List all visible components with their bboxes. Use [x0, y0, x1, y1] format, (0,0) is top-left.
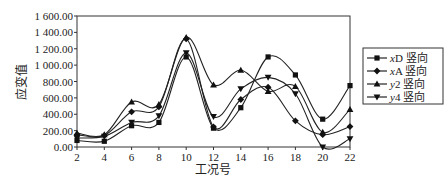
legend-label: y2 竖向: [389, 77, 425, 90]
series-y2: [74, 34, 354, 137]
line-chart: 0.00200.00400.00600.00800.001 000.001 20…: [0, 0, 445, 187]
x-tick-label: 8: [156, 151, 162, 163]
x-tick-label: 22: [345, 151, 356, 163]
y-tick-label: 0.00: [54, 141, 74, 153]
legend-label: y4 竖向: [389, 90, 425, 103]
legend: xD 竖向xA 竖向y2 竖向y4 竖向: [363, 48, 443, 104]
y-tick-label: 600.00: [43, 92, 74, 104]
x-tick-label: 2: [74, 151, 80, 163]
x-tick-label: 4: [102, 151, 108, 163]
y-tick-label: 1 200.00: [35, 43, 74, 55]
y-tick-label: 200.00: [43, 125, 74, 137]
y-tick-label: 400.00: [43, 108, 74, 120]
x-tick-label: 16: [263, 151, 275, 163]
y-tick-label: 1 600.00: [35, 10, 74, 22]
x-tick-label: 14: [235, 151, 247, 163]
x-tick-label: 20: [317, 151, 329, 163]
legend-label: xA 竖向: [389, 64, 427, 77]
y-axis-label: 应变值: [14, 64, 29, 100]
series-lines: [74, 34, 354, 151]
x-axis-label: 工况号: [195, 163, 231, 177]
y-tick-label: 1 000.00: [35, 59, 74, 71]
x-tick-label: 6: [129, 151, 135, 163]
x-tick-label: 12: [208, 151, 219, 163]
axes: 0.00200.00400.00600.00800.001 000.001 20…: [35, 10, 356, 163]
y-tick-label: 800.00: [43, 76, 74, 88]
y-tick-label: 1 400.00: [35, 26, 74, 38]
legend-label: xD 竖向: [389, 51, 428, 64]
x-tick-label: 18: [290, 151, 302, 163]
x-tick-label: 10: [181, 151, 193, 163]
